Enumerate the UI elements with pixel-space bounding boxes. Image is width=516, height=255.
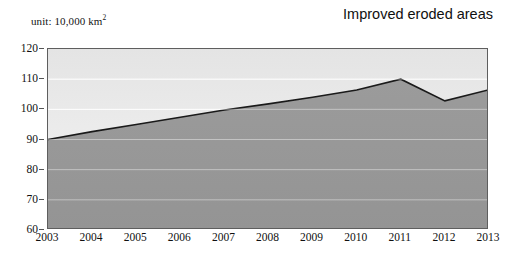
x-tick-label-2006: 2006 [168, 231, 191, 243]
x-tick-label-2011: 2011 [389, 231, 412, 243]
chart-root: unit: 10,000 km2 Improved eroded areas 6… [0, 0, 516, 255]
x-tick-label-2010: 2010 [344, 231, 367, 243]
y-axis: 60708090100110120 [0, 40, 44, 240]
x-axis: 2003200420052006200720082009201020112012… [0, 231, 516, 251]
x-tick-label-2008: 2008 [256, 231, 279, 243]
x-tick-label-2012: 2012 [432, 231, 455, 243]
y-tick-label-110: 110 [21, 72, 38, 84]
x-tick-label-2003: 2003 [36, 231, 59, 243]
x-tick-label-2009: 2009 [300, 231, 323, 243]
y-tick-mark-100 [39, 108, 44, 109]
y-tick-label-90: 90 [27, 133, 39, 145]
y-tick-mark-60 [39, 229, 44, 230]
x-tick-label-2007: 2007 [212, 231, 235, 243]
y-tick-mark-90 [39, 139, 44, 140]
y-tick-mark-110 [39, 78, 44, 79]
unit-label-text: unit: 10,000 km [31, 15, 102, 27]
x-tick-label-2013: 2013 [477, 231, 500, 243]
y-tick-mark-70 [39, 199, 44, 200]
y-tick-label-80: 80 [27, 163, 39, 175]
unit-exponent: 2 [102, 13, 106, 22]
x-tick-label-2004: 2004 [80, 231, 103, 243]
area-chart-svg [48, 49, 488, 229]
y-tick-label-70: 70 [27, 193, 39, 205]
unit-label: unit: 10,000 km2 [31, 15, 106, 27]
y-tick-label-120: 120 [21, 42, 38, 54]
x-tick-label-2005: 2005 [124, 231, 147, 243]
y-tick-mark-120 [39, 48, 44, 49]
y-tick-mark-80 [39, 169, 44, 170]
plot-area [47, 48, 488, 229]
y-tick-label-100: 100 [21, 102, 38, 114]
chart-title: Improved eroded areas [343, 6, 493, 22]
